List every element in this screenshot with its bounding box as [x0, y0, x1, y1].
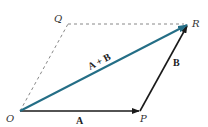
point-label-q: Q	[54, 13, 62, 24]
resultant-label: A + B	[86, 51, 113, 72]
point-label-o: O	[6, 113, 14, 124]
point-label-r: R	[191, 18, 200, 29]
resultant-vector-arrow	[20, 25, 187, 111]
vector-a-label: A	[76, 115, 84, 126]
vector-b-arrow	[140, 26, 187, 111]
vector-addition-diagram: O P R Q A B A + B	[0, 0, 208, 127]
point-label-p: P	[139, 113, 147, 124]
vector-b-label: B	[173, 57, 180, 68]
